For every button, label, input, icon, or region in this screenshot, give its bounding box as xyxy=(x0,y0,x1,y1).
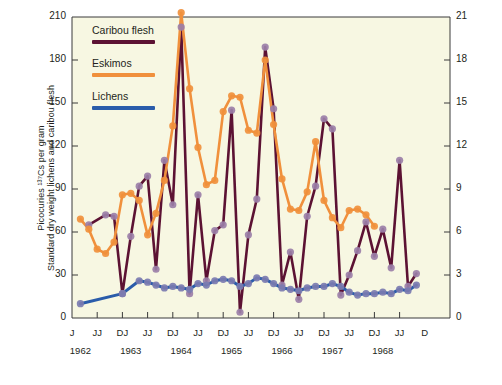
data-point-eskimos xyxy=(152,210,159,217)
y-axis-left-tick-label: 60 xyxy=(28,225,66,236)
y-axis-left-tick-label: 150 xyxy=(28,96,66,107)
data-point-lichens xyxy=(320,283,327,290)
data-point-caribou-flesh xyxy=(136,183,143,190)
data-point-lichens xyxy=(119,290,126,297)
data-point-eskimos xyxy=(119,191,126,198)
data-point-caribou-flesh xyxy=(371,253,378,260)
data-point-caribou-flesh xyxy=(362,218,369,225)
data-point-lichens xyxy=(228,277,235,284)
data-point-eskimos xyxy=(245,127,252,134)
y-axis-right-tick-label: 9 xyxy=(456,182,486,193)
data-point-lichens xyxy=(144,279,151,286)
y-axis-right-tick-label: 18 xyxy=(456,53,486,64)
data-point-eskimos xyxy=(354,205,361,212)
data-point-eskimos xyxy=(337,224,344,231)
data-point-lichens xyxy=(262,276,269,283)
y-axis-right-tick-label: 3 xyxy=(456,268,486,279)
data-point-caribou-flesh xyxy=(102,211,109,218)
data-point-eskimos xyxy=(295,207,302,214)
data-point-lichens xyxy=(362,290,369,297)
data-point-caribou-flesh xyxy=(253,195,260,202)
x-axis-tick-label: D xyxy=(410,327,440,338)
data-point-caribou-flesh xyxy=(236,309,243,316)
data-point-eskimos xyxy=(346,207,353,214)
y-axis-right-tick-label: 0 xyxy=(456,311,486,322)
data-point-lichens xyxy=(161,284,168,291)
data-point-lichens xyxy=(136,277,143,284)
data-point-lichens xyxy=(287,286,294,293)
y-axis-left-tick-label: 210 xyxy=(28,10,66,21)
x-axis-year-label: 1965 xyxy=(212,345,252,356)
data-point-eskimos xyxy=(186,85,193,92)
data-point-caribou-flesh xyxy=(245,231,252,238)
data-point-caribou-flesh xyxy=(144,173,151,180)
data-point-eskimos xyxy=(287,205,294,212)
data-point-lichens xyxy=(295,287,302,294)
y-axis-left-tick-label: 90 xyxy=(28,182,66,193)
data-point-eskimos xyxy=(94,246,101,253)
y-axis-left-tick-label: 0 xyxy=(28,311,66,322)
data-point-caribou-flesh xyxy=(388,264,395,271)
data-point-caribou-flesh xyxy=(161,157,168,164)
data-point-eskimos xyxy=(228,92,235,99)
data-point-eskimos xyxy=(110,238,117,245)
data-point-eskimos xyxy=(136,197,143,204)
data-point-caribou-flesh xyxy=(346,271,353,278)
y-axis-right-tick-label: 21 xyxy=(456,10,486,21)
data-point-eskimos xyxy=(236,94,243,101)
data-point-caribou-flesh xyxy=(169,201,176,208)
data-point-caribou-flesh xyxy=(220,221,227,228)
data-point-lichens xyxy=(236,283,243,290)
data-point-lichens xyxy=(186,286,193,293)
data-point-caribou-flesh xyxy=(329,125,336,132)
data-point-eskimos xyxy=(194,144,201,151)
data-point-eskimos xyxy=(371,223,378,230)
data-point-lichens xyxy=(337,283,344,290)
data-point-caribou-flesh xyxy=(270,105,277,112)
data-point-lichens xyxy=(371,290,378,297)
data-point-caribou-flesh xyxy=(152,266,159,273)
data-point-eskimos xyxy=(161,177,168,184)
y-axis-left-tick-label: 120 xyxy=(28,139,66,150)
x-axis-year-label: 1963 xyxy=(111,345,151,356)
y-axis-right-tick-label: 15 xyxy=(456,96,486,107)
data-point-lichens xyxy=(152,281,159,288)
data-point-caribou-flesh xyxy=(110,213,117,220)
data-point-eskimos xyxy=(211,177,218,184)
y-axis-left-tick-label: 180 xyxy=(28,53,66,64)
data-point-lichens xyxy=(379,289,386,296)
data-point-eskimos xyxy=(270,121,277,128)
legend-label-caribou-flesh: Caribou flesh xyxy=(92,24,154,36)
legend-swatch-caribou-flesh xyxy=(92,40,155,44)
data-point-eskimos xyxy=(320,197,327,204)
legend-label-eskimos: Eskimos xyxy=(92,57,132,69)
data-point-eskimos xyxy=(178,9,185,16)
data-point-caribou-flesh xyxy=(396,157,403,164)
data-point-eskimos xyxy=(169,122,176,129)
data-point-caribou-flesh xyxy=(304,213,311,220)
x-axis-year-label: 1967 xyxy=(312,345,352,356)
data-point-lichens xyxy=(245,280,252,287)
x-axis-year-label: 1962 xyxy=(60,345,100,356)
data-point-lichens xyxy=(304,284,311,291)
data-point-eskimos xyxy=(85,226,92,233)
x-axis-year-label: 1966 xyxy=(262,345,302,356)
data-point-caribou-flesh xyxy=(211,227,218,234)
data-point-lichens xyxy=(211,277,218,284)
chart-container: Picocuries ¹³⁷Cs per gram Standard dry w… xyxy=(0,0,502,385)
data-point-lichens xyxy=(194,280,201,287)
data-point-caribou-flesh xyxy=(178,23,185,30)
data-point-eskimos xyxy=(362,211,369,218)
x-axis-year-label: 1968 xyxy=(363,345,403,356)
data-point-lichens xyxy=(329,280,336,287)
data-point-eskimos xyxy=(304,188,311,195)
data-point-caribou-flesh xyxy=(228,107,235,114)
data-point-caribou-flesh xyxy=(413,270,420,277)
data-point-lichens xyxy=(178,284,185,291)
data-point-caribou-flesh xyxy=(354,247,361,254)
data-point-lichens xyxy=(203,281,210,288)
data-point-lichens xyxy=(404,287,411,294)
legend-label-lichens: Lichens xyxy=(92,90,128,102)
data-point-eskimos xyxy=(329,214,336,221)
data-point-caribou-flesh xyxy=(194,191,201,198)
